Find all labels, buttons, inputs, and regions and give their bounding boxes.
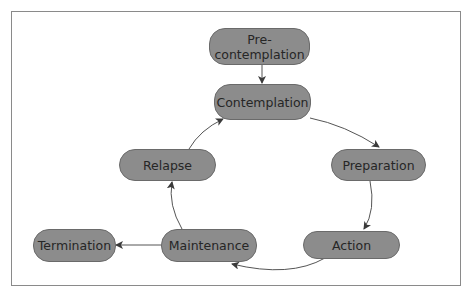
node-precontemplation-label-line1: Pre- <box>247 32 271 47</box>
node-termination-label: Termination <box>38 238 111 253</box>
node-maintenance[interactable]: Maintenance <box>161 229 257 262</box>
node-contemplation-label: Contemplation <box>216 95 308 110</box>
edge-preparation-action <box>364 181 372 229</box>
node-maintenance-label: Maintenance <box>169 238 250 253</box>
edge-maintenance-relapse <box>171 182 182 229</box>
node-termination[interactable]: Termination <box>33 229 116 262</box>
node-relapse[interactable]: Relapse <box>119 149 216 181</box>
node-contemplation[interactable]: Contemplation <box>214 84 311 120</box>
edge-contemplation-preparation <box>310 118 379 147</box>
node-action-label: Action <box>332 238 371 253</box>
node-action[interactable]: Action <box>303 231 400 259</box>
node-precontemplation[interactable]: Pre- contemplation <box>209 28 310 65</box>
edge-relapse-contemplation <box>189 119 223 149</box>
node-preparation-label: Preparation <box>342 158 414 173</box>
node-precontemplation-label-line2: contemplation <box>214 47 304 62</box>
node-preparation[interactable]: Preparation <box>331 149 426 181</box>
node-relapse-label: Relapse <box>143 158 192 173</box>
